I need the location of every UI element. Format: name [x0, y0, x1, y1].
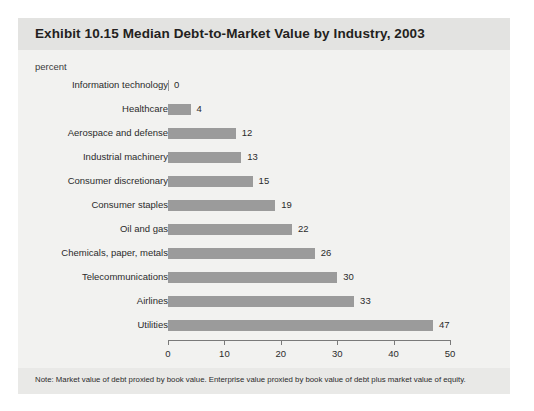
x-axis-tick [224, 340, 225, 345]
bar-track: 12 [168, 122, 450, 146]
bar-row: Chemicals, paper, metals26 [18, 242, 510, 266]
x-axis-tick-label: 50 [445, 348, 456, 359]
x-axis: 01020304050 [168, 340, 450, 370]
bar-value-label: 19 [281, 199, 292, 210]
bar-track: 33 [168, 290, 450, 314]
bar-track: 15 [168, 170, 450, 194]
bar-category-label: Utilities [137, 319, 168, 330]
bar-row: Consumer discretionary15 [18, 170, 510, 194]
bar-value-label: 47 [439, 319, 450, 330]
bar-category-label: Airlines [137, 295, 168, 306]
bar-track: 0 [168, 74, 450, 98]
bar [168, 296, 354, 307]
bar-row: Healthcare4 [18, 98, 510, 122]
x-axis-tick-label: 0 [165, 348, 170, 359]
bar-value-label: 0 [174, 79, 179, 90]
x-axis-tick [168, 340, 169, 345]
bar-value-label: 13 [247, 151, 258, 162]
bar-category-label: Consumer staples [91, 199, 168, 210]
bar-track: 30 [168, 266, 450, 290]
exhibit-panel: Exhibit 10.15 Median Debt-to-Market Valu… [18, 18, 510, 394]
bar-row: Oil and gas22 [18, 218, 510, 242]
x-axis-tick [450, 340, 451, 345]
exhibit-footer-band: Note: Market value of debt proxied by bo… [18, 368, 510, 394]
bar-row: Airlines33 [18, 290, 510, 314]
bar-track: 19 [168, 194, 450, 218]
x-axis-tick [394, 340, 395, 345]
axis-unit-label: percent [35, 61, 67, 72]
bar-row: Information technology0 [18, 74, 510, 98]
bar-row: Consumer staples19 [18, 194, 510, 218]
bar-category-label: Telecommunications [82, 271, 168, 282]
bar-value-label: 15 [259, 175, 270, 186]
bar-value-label: 12 [242, 127, 253, 138]
bar-row: Utilities47 [18, 314, 510, 338]
bar [168, 176, 253, 187]
x-axis-tick-label: 20 [276, 348, 287, 359]
bar-value-label: 22 [298, 223, 309, 234]
bar [168, 224, 292, 235]
zero-value-marker [168, 80, 169, 91]
bar [168, 320, 433, 331]
bar [168, 248, 315, 259]
bar [168, 104, 191, 115]
bar-category-label: Oil and gas [120, 223, 168, 234]
bar-track: 47 [168, 314, 450, 338]
bar-track: 4 [168, 98, 450, 122]
bar-category-label: Healthcare [122, 103, 168, 114]
bar-track: 22 [168, 218, 450, 242]
bar-row: Aerospace and defense12 [18, 122, 510, 146]
x-axis-tick [281, 340, 282, 345]
bar-value-label: 4 [197, 103, 202, 114]
bar-category-label: Chemicals, paper, metals [61, 247, 168, 258]
bar-value-label: 33 [360, 295, 371, 306]
bar-value-label: 30 [343, 271, 354, 282]
bar [168, 272, 337, 283]
exhibit-title: Exhibit 10.15 Median Debt-to-Market Valu… [35, 26, 425, 41]
bar-track: 13 [168, 146, 450, 170]
bar-category-label: Aerospace and defense [68, 127, 168, 138]
x-axis-tick-label: 40 [388, 348, 399, 359]
chart-plot-area: Information technology0Healthcare4Aerosp… [18, 74, 510, 354]
x-axis-tick [337, 340, 338, 345]
x-axis-tick-label: 30 [332, 348, 343, 359]
x-axis-line [168, 340, 450, 341]
bar-category-label: Industrial machinery [83, 151, 168, 162]
bar [168, 200, 275, 211]
bar-value-label: 26 [321, 247, 332, 258]
bar [168, 152, 241, 163]
x-axis-tick-label: 10 [219, 348, 230, 359]
footnote: Note: Market value of debt proxied by bo… [35, 375, 466, 384]
bar-category-label: Information technology [72, 79, 168, 90]
bar-track: 26 [168, 242, 450, 266]
bar-category-label: Consumer discretionary [68, 175, 168, 186]
bar-row: Industrial machinery13 [18, 146, 510, 170]
bar-row: Telecommunications30 [18, 266, 510, 290]
bar [168, 128, 236, 139]
